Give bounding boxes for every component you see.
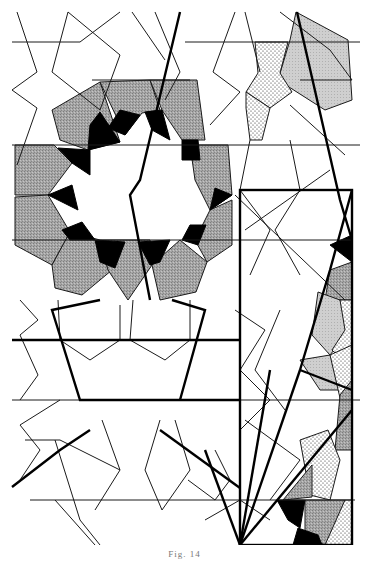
outline-polyline [52,300,240,400]
grey-pentagon [283,465,312,500]
top-right-shading [246,12,352,140]
black-triangle [182,140,200,160]
frame-shading [277,235,352,545]
outline-polyline [160,430,240,488]
fan-line [240,370,270,545]
figure-caption: Fig. 14 [0,549,369,559]
outline-polyline [12,430,90,487]
black-triangle [277,500,305,528]
geometric-pattern-figure [0,0,369,545]
